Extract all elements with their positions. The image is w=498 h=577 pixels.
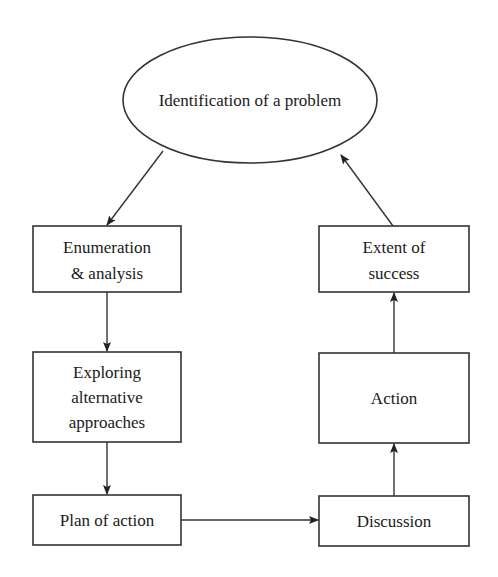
node-label-line-2: alternative (71, 388, 143, 407)
node-label-line-2: success (369, 264, 420, 283)
node-label: Discussion (357, 512, 432, 531)
arrow-identification-to-enumeration (107, 151, 163, 225)
node-discussion: Discussion (319, 496, 469, 546)
node-label: Identification of a problem (159, 91, 342, 110)
edges (107, 151, 394, 520)
node-extent: Extent of success (319, 226, 469, 292)
node-label-line-1: Exploring (73, 363, 141, 382)
node-plan: Plan of action (33, 495, 181, 545)
node-identification: Identification of a problem (123, 37, 377, 163)
node-label: Action (371, 389, 418, 408)
node-label-line-3: approaches (69, 413, 145, 432)
node-label-line-1: Enumeration (63, 238, 151, 257)
node-enumeration: Enumeration & analysis (33, 226, 181, 292)
arrow-extent-to-identification (341, 155, 393, 226)
node-label-line-1: Extent of (363, 238, 426, 257)
node-exploring: Exploring alternative approaches (33, 352, 181, 442)
node-action: Action (319, 353, 469, 443)
action-research-cycle-diagram: Identification of a problem Enumeration … (0, 0, 498, 577)
node-label: Plan of action (60, 511, 155, 530)
node-label-line-2: & analysis (71, 264, 143, 283)
